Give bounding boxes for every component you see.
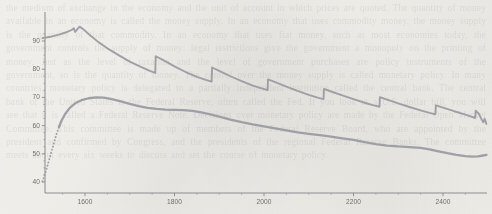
x-axis-tick-label: 2200 bbox=[336, 198, 372, 205]
x-axis-tick-label: 2000 bbox=[246, 198, 282, 205]
series-lower-smooth-curve bbox=[59, 97, 486, 156]
series-upper-sawtooth-curve bbox=[42, 27, 486, 124]
chart-plot-area bbox=[0, 0, 492, 214]
y-axis-tick-label: 50 bbox=[12, 150, 40, 157]
y-axis-tick-label: 80 bbox=[12, 65, 40, 72]
y-axis-tick-label: 60 bbox=[12, 122, 40, 129]
y-axis-tick-label: 70 bbox=[12, 93, 40, 100]
data-series-group bbox=[42, 27, 486, 182]
axis-ticks-group bbox=[42, 34, 466, 196]
x-axis-tick-label: 1600 bbox=[67, 198, 103, 205]
y-axis-tick-label: 90 bbox=[12, 37, 40, 44]
x-axis-tick-label: 1800 bbox=[157, 198, 193, 205]
axes-group bbox=[45, 12, 487, 193]
scanned-chart-page: the medium of exchange in the economy an… bbox=[0, 0, 492, 214]
x-axis-tick-label: 2400 bbox=[425, 198, 461, 205]
y-axis-tick-label: 40 bbox=[12, 178, 40, 185]
